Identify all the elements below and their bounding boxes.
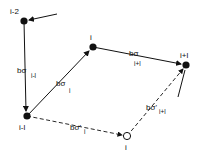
edge-label-i-main: bσ [56,79,65,88]
chain-diagram: i-2 i i+l i-l i bσ i-l bσ i bσ i+l bσ' i… [0,0,203,154]
node-label-i-2: i-2 [10,7,19,16]
edge-label-i+1-sub: i+l [134,60,141,67]
node-i+1 [182,61,189,68]
edge-label-i-sub: i [69,87,70,94]
edge-label-i+1-main: bσ [129,49,138,58]
incoming-edge-i-2 [29,14,57,20]
node-i [89,43,96,50]
node-i-2 [20,17,27,24]
edge-label-i+1-prime-sub: i+l [159,108,166,115]
node-label-i-1: i-l [19,123,25,132]
node-label-i+1: i+l [180,51,188,60]
node-label-i-prime: i [125,143,127,152]
edge-label-i+1-prime-main: bσ' [146,103,157,112]
node-label-i: i [90,33,92,42]
edge-label-i-prime-main: bσ' [70,123,81,132]
edge-label-i-1-main: bσ [17,66,26,75]
edge-label-i-1-sub: i-l [31,72,37,79]
edge-label-i-prime-sub: i [84,128,85,135]
node-i-prime [123,132,130,139]
node-i-1 [23,112,30,119]
